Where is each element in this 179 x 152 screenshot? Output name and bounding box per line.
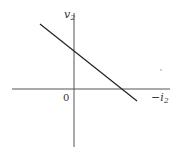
- stray-dot: [160, 69, 161, 70]
- origin-label: 0: [63, 92, 69, 103]
- diagram-canvas: v2 −i2 0: [0, 0, 179, 152]
- x-axis-label: −i2: [151, 91, 169, 105]
- y-axis-label: v2: [64, 8, 75, 22]
